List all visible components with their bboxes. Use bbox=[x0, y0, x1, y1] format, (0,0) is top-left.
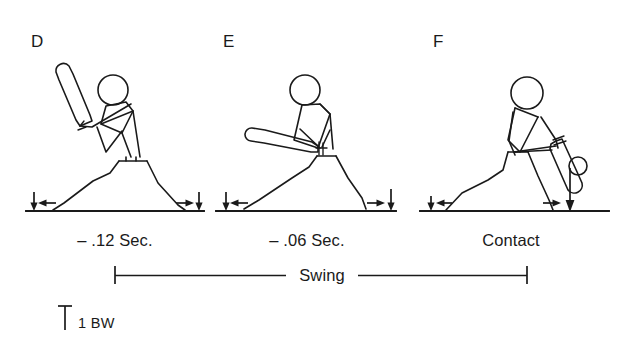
lead-arm-f bbox=[541, 117, 558, 148]
force-vector-rear-horizontal-e bbox=[230, 200, 248, 207]
panel-letter-d: D bbox=[31, 32, 43, 51]
back-line-e bbox=[330, 114, 333, 149]
trunk-side-d bbox=[122, 133, 131, 157]
shoulder-e bbox=[320, 104, 330, 114]
panel-d: D – .12 Sec. bbox=[26, 32, 204, 249]
panel-letter-f: F bbox=[433, 32, 444, 51]
force-vector-front-vertical-e bbox=[387, 189, 394, 211]
rear-leg-d bbox=[53, 161, 119, 210]
force-vector-front-horizontal-e bbox=[367, 200, 385, 207]
swing-force-figure: D – .12 Sec. bbox=[0, 0, 635, 340]
batter-figure-e bbox=[244, 75, 366, 209]
phase-label-d: – .12 Sec. bbox=[77, 231, 152, 249]
force-vector-front-vertical-large-f bbox=[566, 168, 575, 212]
rear-leg-e bbox=[244, 156, 317, 209]
vertical-scale-bar-icon bbox=[58, 306, 72, 330]
spine-line-d bbox=[133, 111, 140, 157]
front-leg-e bbox=[336, 156, 366, 209]
phase-label-f: Contact bbox=[482, 231, 540, 249]
phase-label-e: – .06 Sec. bbox=[269, 231, 344, 249]
force-vector-rear-vertical-d bbox=[30, 192, 37, 211]
scale-marker-label: 1 BW bbox=[78, 315, 115, 331]
bat-e bbox=[245, 128, 318, 152]
rear-leg-f bbox=[446, 152, 508, 210]
panel-e: E – .06 Sec. bbox=[216, 32, 396, 249]
swing-span-bracket: Swing bbox=[115, 266, 527, 284]
force-vector-rear-vertical-f bbox=[427, 196, 434, 211]
front-leg-f bbox=[528, 152, 553, 210]
head-icon-d bbox=[98, 75, 128, 105]
batter-figure-f bbox=[446, 77, 587, 210]
force-vector-front-vertical-d bbox=[195, 192, 202, 211]
rear-arm-f bbox=[509, 112, 515, 155]
force-vector-rear-vertical-e bbox=[222, 192, 229, 211]
scale-marker: 1 BW bbox=[58, 306, 115, 331]
panel-f: F Contact bbox=[420, 32, 609, 249]
figure-container: D – .12 Sec. bbox=[0, 0, 635, 340]
head-icon-f bbox=[511, 77, 543, 109]
batter-figure-d bbox=[53, 64, 185, 210]
bat-f bbox=[550, 139, 582, 193]
bat-d bbox=[56, 64, 92, 126]
head-icon-e bbox=[290, 75, 320, 105]
force-vector-rear-horizontal-d bbox=[38, 200, 56, 207]
swing-span-label: Swing bbox=[299, 266, 344, 284]
panel-letter-e: E bbox=[223, 32, 235, 51]
